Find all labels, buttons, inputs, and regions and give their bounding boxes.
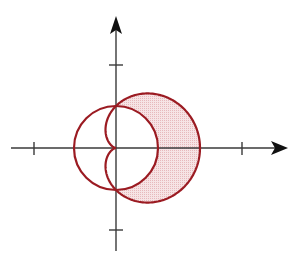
figure-canvas (0, 0, 305, 277)
polar-region-figure (0, 0, 305, 277)
x-axis (11, 142, 276, 155)
y-axis (109, 28, 123, 251)
